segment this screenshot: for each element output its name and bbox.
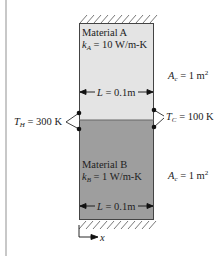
material-b-area-label: Ac = 1 m2 <box>168 168 208 185</box>
x-axis-label: x <box>100 232 105 243</box>
material-a-name: Material A <box>82 27 127 38</box>
hot-temperature-label: TH = 300 K <box>14 116 62 131</box>
temp-value: = 100 K <box>179 111 214 122</box>
area-exponent: 2 <box>205 169 209 177</box>
material-b-name: Material B <box>82 159 127 170</box>
length-value: = 0.1m <box>105 201 135 212</box>
top-hatch-icon <box>80 15 157 23</box>
material-a-length-label: L = 0.1m <box>97 87 135 98</box>
bottom-hatch-icon <box>79 221 156 229</box>
k-value: = 10 W/m-K <box>94 39 148 50</box>
hot-node-b-dot-icon <box>77 127 82 132</box>
hot-side-leader-icon <box>66 113 79 129</box>
length-value: = 0.1m <box>105 87 135 98</box>
cold-temperature-label: TC = 100 K <box>166 111 214 126</box>
area-value: = 1 m <box>180 70 205 81</box>
temp-value: = 300 K <box>28 116 63 127</box>
cold-side-leader-icon <box>154 110 164 127</box>
material-a-area-label: Ac = 1 m2 <box>168 68 208 85</box>
length-symbol: L <box>97 87 103 98</box>
cold-node-b-dot-icon <box>152 125 157 130</box>
k-value: = 1 W/m-K <box>94 171 142 182</box>
temp-subscript: H <box>20 121 25 129</box>
temp-subscript: C <box>172 116 177 124</box>
area-subscript: c <box>174 175 177 183</box>
k-subscript: B <box>87 176 91 184</box>
area-exponent: 2 <box>205 69 209 77</box>
x-axis-arrow-icon <box>79 225 98 240</box>
area-value: = 1 m <box>180 170 205 181</box>
length-symbol: L <box>97 201 103 212</box>
k-subscript: A <box>87 44 91 52</box>
material-b-length-label: L = 0.1m <box>97 201 135 212</box>
area-subscript: c <box>174 75 177 83</box>
material-a-conductivity: kA = 10 W/m-K <box>82 39 147 54</box>
hot-node-a-dot-icon <box>77 111 82 116</box>
material-b-conductivity: kB = 1 W/m-K <box>82 171 142 186</box>
cold-node-a-dot-icon <box>152 108 157 113</box>
